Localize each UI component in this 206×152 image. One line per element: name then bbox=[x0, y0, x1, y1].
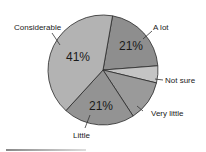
percent-considerable: 41% bbox=[66, 50, 90, 64]
label-a-lot: A lot bbox=[153, 23, 169, 32]
label-little: Little bbox=[73, 131, 90, 140]
pie-chart: Considerable A lot Not sure Very little … bbox=[0, 0, 206, 152]
bottom-rule bbox=[6, 149, 86, 151]
label-not-sure: Not sure bbox=[165, 76, 196, 85]
label-very-little: Very little bbox=[151, 109, 184, 118]
label-considerable: Considerable bbox=[14, 23, 62, 32]
percent-a-lot: 21% bbox=[119, 39, 143, 53]
percent-little: 21% bbox=[89, 99, 113, 113]
